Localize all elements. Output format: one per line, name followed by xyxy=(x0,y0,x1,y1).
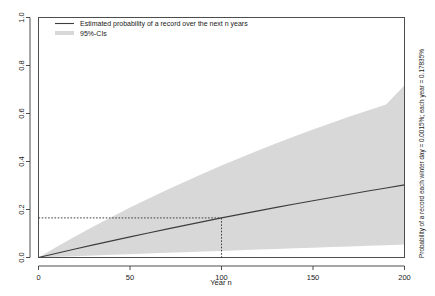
y-tick-label: 0.2 xyxy=(17,204,26,214)
y-tick-label: 1.0 xyxy=(17,12,26,22)
x-axis-label: Year n xyxy=(210,278,231,287)
y-tick-label: 0.0 xyxy=(17,252,26,262)
chart-legend: Estimated probability of a record over t… xyxy=(55,20,248,37)
probability-of-record-line-chart: 050100150200 0.00.20.40.60.81.0 Year n P… xyxy=(0,0,435,296)
x-tick-label: 50 xyxy=(126,273,134,282)
x-tick-label: 200 xyxy=(398,273,411,282)
x-tick-label: 150 xyxy=(307,273,320,282)
legend-label-estimated: Estimated probability of a record over t… xyxy=(80,20,248,28)
chart-figure: 050100150200 0.00.20.40.60.81.0 Year n P… xyxy=(0,0,435,296)
y-tick-label: 0.8 xyxy=(17,60,26,70)
y-tick-label: 0.6 xyxy=(17,108,26,118)
y-axis: 0.00.20.40.60.81.0 xyxy=(17,12,30,262)
right-axis-annotation-label: Probability of a record each winter day … xyxy=(418,49,426,258)
x-tick-label: 0 xyxy=(36,273,40,282)
legend-swatch-ci-band xyxy=(55,31,74,35)
legend-label-ci: 95%-CIs xyxy=(80,30,107,37)
y-tick-label: 0.4 xyxy=(17,156,26,166)
